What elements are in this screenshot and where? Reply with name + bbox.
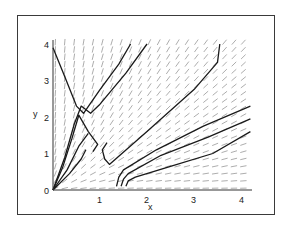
field-segment — [74, 90, 75, 96]
field-segment — [175, 121, 180, 125]
field-segment — [147, 135, 152, 139]
field-segment — [148, 39, 151, 45]
field-segment — [101, 68, 103, 74]
y-tick-1: 1 — [44, 149, 49, 159]
field-segment — [64, 105, 65, 111]
field-segment — [148, 54, 151, 60]
field-segment — [55, 141, 56, 147]
field-segment — [213, 40, 217, 45]
field-segment — [110, 83, 113, 89]
field-segment — [83, 90, 85, 96]
field-segment — [147, 113, 151, 118]
field-segment — [184, 173, 190, 174]
field-segment — [194, 69, 198, 74]
field-segment — [203, 151, 209, 153]
field-segment — [241, 62, 246, 66]
field-segment — [185, 98, 190, 102]
field-segment — [176, 39, 179, 44]
field-segment — [157, 69, 161, 74]
field-segment — [231, 166, 237, 167]
field-segment — [64, 39, 65, 45]
field-segment — [146, 158, 152, 161]
field-segment — [148, 83, 152, 88]
field-segment — [118, 157, 123, 160]
field-segment — [55, 156, 56, 162]
field-segment — [119, 127, 123, 132]
field-segment — [129, 47, 131, 53]
field-segment — [110, 105, 113, 111]
field-segment — [212, 173, 218, 174]
field-segment — [101, 54, 103, 60]
field-segment — [204, 40, 208, 45]
field-segment — [92, 112, 95, 118]
field-segment — [55, 112, 56, 118]
field-segment — [138, 105, 142, 110]
field-segment — [167, 39, 170, 45]
field-segment — [241, 99, 246, 103]
field-segment — [166, 91, 170, 96]
field-segment — [223, 40, 227, 45]
field-segment — [232, 47, 236, 52]
field-segment — [240, 173, 246, 174]
field-segment — [129, 76, 132, 82]
field-segment — [203, 173, 209, 174]
field-segment — [64, 90, 65, 96]
field-segment — [231, 84, 236, 88]
field-segment — [157, 39, 160, 45]
field-segment — [194, 47, 198, 52]
field-segment — [222, 91, 227, 95]
field-segment — [166, 54, 169, 59]
field-segment — [213, 84, 218, 88]
field-segment — [99, 188, 105, 189]
field-segment — [231, 99, 236, 103]
field-segment — [231, 158, 237, 160]
field-segment — [74, 61, 75, 67]
field-segment — [111, 76, 113, 82]
field-segment — [176, 61, 180, 66]
field-segment — [167, 47, 170, 52]
field-segment — [101, 46, 103, 52]
field-segment — [129, 91, 132, 96]
field-segment — [109, 150, 114, 154]
field-segment — [240, 151, 246, 153]
field-segment — [184, 165, 190, 167]
field-segment — [203, 91, 208, 95]
field-segment — [109, 172, 115, 174]
field-segment — [81, 172, 86, 176]
field-segment — [71, 188, 77, 189]
field-segment — [184, 121, 189, 125]
field-segment — [241, 84, 246, 88]
field-segment — [203, 106, 208, 110]
field-segment — [194, 121, 199, 125]
field-segment — [166, 128, 171, 132]
field-segment — [157, 106, 161, 111]
field-segment — [204, 47, 208, 52]
field-segment — [165, 135, 170, 138]
field-segment — [99, 180, 105, 182]
field-segment — [213, 47, 217, 52]
field-segment — [185, 84, 189, 89]
field-segment — [241, 47, 245, 52]
field-segment — [111, 54, 113, 60]
field-segment — [110, 98, 113, 104]
field-segment — [128, 127, 132, 132]
field-segment — [120, 68, 123, 74]
field-segment — [156, 113, 161, 117]
field-segment — [241, 77, 246, 81]
field-segment — [221, 173, 227, 174]
field-segment — [157, 76, 161, 81]
field-segment — [73, 112, 75, 118]
y-tick-3: 3 — [44, 76, 49, 86]
field-segment — [138, 113, 142, 118]
field-segment — [110, 135, 114, 140]
field-segment — [74, 68, 75, 74]
field-segment — [156, 165, 162, 167]
field-segment — [55, 134, 56, 140]
field-segment — [82, 142, 85, 148]
field-segment — [64, 127, 65, 133]
field-segment — [213, 91, 218, 95]
axes — [53, 40, 252, 190]
field-segment — [101, 112, 104, 118]
field-segment — [166, 76, 170, 81]
x-tick-3: 3 — [191, 195, 196, 205]
